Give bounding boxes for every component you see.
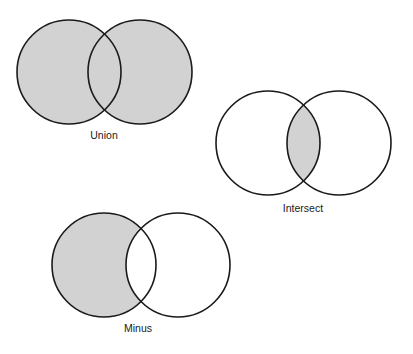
minus-label: Minus xyxy=(124,322,152,334)
union-diagram: Union xyxy=(17,20,192,141)
intersect-label: Intersect xyxy=(283,202,323,214)
venn-diagram-canvas: Union Intersect Minus xyxy=(0,0,413,354)
minus-diagram: Minus xyxy=(52,213,230,334)
intersect-diagram: Intersect xyxy=(216,91,391,214)
union-label: Union xyxy=(90,129,118,141)
